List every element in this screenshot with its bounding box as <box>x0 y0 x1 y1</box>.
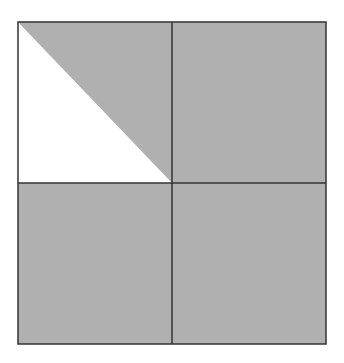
shaded-cell <box>18 183 172 344</box>
shaded-cell <box>172 183 326 344</box>
shaded-cell <box>172 22 326 183</box>
fraction-diagram <box>0 0 344 363</box>
